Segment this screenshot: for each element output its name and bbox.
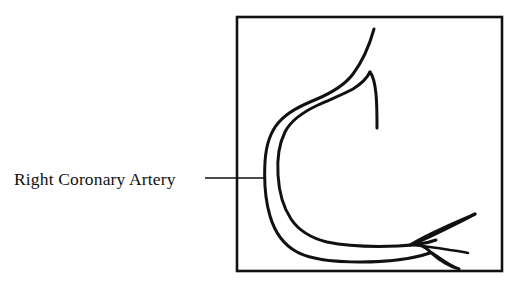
figure-root: Right Coronary Artery: [0, 0, 513, 291]
coronary-artery-diagram: Right Coronary Artery: [0, 0, 513, 291]
artery-label: Right Coronary Artery: [14, 169, 176, 189]
